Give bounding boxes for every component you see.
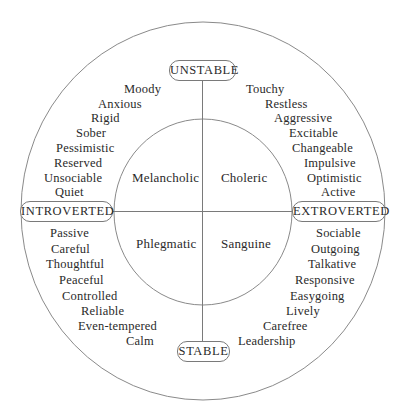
trait-restless: Restless [265, 97, 308, 111]
temperament-phlegmatic: Phlegmatic [136, 236, 197, 251]
trait-changeable: Changeable [292, 141, 353, 155]
temperament-diagram: UNSTABLE STABLE INTROVERTED EXTROVERTED … [0, 0, 402, 420]
trait-passive: Passive [50, 226, 89, 240]
trait-even-tempered: Even-tempered [78, 319, 157, 333]
trait-peaceful: Peaceful [59, 273, 104, 287]
trait-pessimistic: Pessimistic [56, 141, 114, 155]
trait-outgoing: Outgoing [311, 242, 360, 256]
trait-rigid: Rigid [91, 111, 120, 125]
trait-aggressive: Aggressive [274, 111, 332, 125]
trait-lively: Lively [286, 304, 320, 318]
axis-label-stable: STABLE [177, 341, 230, 362]
axis-label-unstable: UNSTABLE [169, 60, 236, 81]
trait-responsive: Responsive [295, 273, 355, 287]
trait-anxious: Anxious [98, 97, 142, 111]
trait-calm: Calm [126, 334, 154, 348]
temperament-sanguine: Sanguine [221, 236, 271, 251]
trait-carefree: Carefree [263, 319, 308, 333]
axis-label-extroverted: EXTROVERTED [292, 201, 386, 222]
trait-excitable: Excitable [289, 126, 338, 140]
trait-quiet: Quiet [55, 185, 84, 199]
trait-careful: Careful [51, 242, 90, 256]
trait-easygoing: Easygoing [290, 289, 345, 303]
trait-impulsive: Impulsive [304, 156, 356, 170]
temperament-melancholic: Melancholic [132, 170, 199, 185]
trait-leadership: Leadership [238, 334, 296, 348]
trait-controlled: Controlled [62, 289, 117, 303]
temperament-choleric: Choleric [221, 170, 267, 185]
axis-label-introverted: INTROVERTED [20, 201, 113, 222]
trait-thoughtful: Thoughtful [46, 257, 104, 271]
trait-reserved: Reserved [54, 156, 102, 170]
trait-unsociable: Unsociable [44, 171, 102, 185]
trait-reliable: Reliable [81, 304, 124, 318]
trait-touchy: Touchy [246, 82, 285, 96]
trait-moody: Moody [124, 82, 161, 96]
trait-talkative: Talkative [308, 257, 356, 271]
trait-active: Active [321, 185, 356, 199]
trait-sober: Sober [76, 126, 106, 140]
trait-optimistic: Optimistic [307, 171, 362, 185]
trait-sociable: Sociable [316, 226, 361, 240]
